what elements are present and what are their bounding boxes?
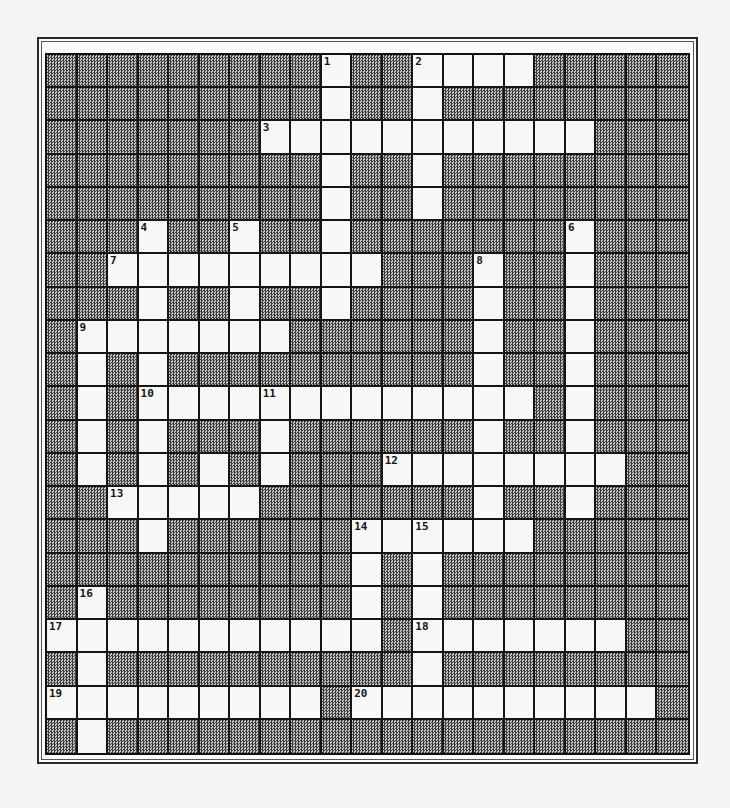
crossword-cell[interactable] [413, 88, 444, 121]
crossword-cell[interactable] [627, 687, 658, 720]
crossword-cell[interactable] [108, 687, 139, 720]
letter-input[interactable] [322, 288, 351, 319]
letter-input[interactable] [535, 687, 564, 718]
letter-input[interactable] [474, 387, 503, 418]
crossword-cell[interactable] [108, 321, 139, 354]
crossword-cell[interactable] [474, 55, 505, 88]
letter-input[interactable] [474, 55, 503, 86]
letter-input[interactable] [566, 121, 595, 152]
letter-input[interactable] [352, 620, 381, 651]
crossword-cell[interactable] [505, 520, 536, 553]
crossword-cell[interactable] [352, 587, 383, 620]
letter-input[interactable] [413, 121, 442, 152]
letter-input[interactable] [505, 454, 534, 485]
letter-input[interactable] [261, 387, 290, 418]
letter-input[interactable] [413, 653, 442, 684]
crossword-cell[interactable] [566, 354, 597, 387]
letter-input[interactable] [200, 254, 229, 285]
letter-input[interactable] [352, 587, 381, 618]
letter-input[interactable] [352, 520, 381, 551]
letter-input[interactable] [566, 421, 595, 452]
crossword-cell[interactable]: 7 [108, 254, 139, 287]
crossword-cell[interactable] [139, 487, 170, 520]
crossword-cell[interactable] [474, 520, 505, 553]
crossword-cell[interactable] [444, 454, 475, 487]
crossword-cell[interactable] [261, 321, 292, 354]
crossword-cell[interactable] [505, 687, 536, 720]
letter-input[interactable] [230, 221, 259, 252]
crossword-cell[interactable]: 4 [139, 221, 170, 254]
crossword-cell[interactable] [413, 587, 444, 620]
crossword-cell[interactable] [596, 620, 627, 653]
crossword-cell[interactable] [474, 288, 505, 321]
letter-input[interactable] [261, 421, 290, 452]
letter-input[interactable] [322, 221, 351, 252]
letter-input[interactable] [627, 687, 656, 718]
crossword-cell[interactable] [139, 454, 170, 487]
crossword-cell[interactable] [261, 454, 292, 487]
crossword-cell[interactable] [566, 387, 597, 420]
letter-input[interactable] [352, 387, 381, 418]
letter-input[interactable] [383, 121, 412, 152]
letter-input[interactable] [413, 620, 442, 651]
letter-input[interactable] [474, 321, 503, 352]
letter-input[interactable] [474, 454, 503, 485]
letter-input[interactable] [474, 354, 503, 385]
letter-input[interactable] [230, 387, 259, 418]
letter-input[interactable] [474, 687, 503, 718]
letter-input[interactable] [566, 687, 595, 718]
crossword-cell[interactable] [505, 620, 536, 653]
letter-input[interactable] [200, 487, 229, 518]
crossword-cell[interactable] [535, 121, 566, 154]
crossword-cell[interactable] [291, 687, 322, 720]
letter-input[interactable] [230, 321, 259, 352]
letter-input[interactable] [139, 288, 168, 319]
crossword-cell[interactable] [505, 387, 536, 420]
letter-input[interactable] [169, 321, 198, 352]
crossword-cell[interactable] [444, 520, 475, 553]
letter-input[interactable] [322, 254, 351, 285]
letter-input[interactable] [78, 720, 107, 753]
letter-input[interactable] [535, 121, 564, 152]
letter-input[interactable] [139, 454, 168, 485]
letter-input[interactable] [230, 620, 259, 651]
crossword-cell[interactable] [535, 620, 566, 653]
crossword-cell[interactable] [413, 121, 444, 154]
crossword-cell[interactable] [474, 421, 505, 454]
letter-input[interactable] [352, 687, 381, 718]
crossword-cell[interactable] [322, 288, 353, 321]
letter-input[interactable] [413, 587, 442, 618]
letter-input[interactable] [413, 188, 442, 219]
letter-input[interactable] [139, 620, 168, 651]
letter-input[interactable] [444, 454, 473, 485]
letter-input[interactable] [383, 454, 412, 485]
letter-input[interactable] [505, 687, 534, 718]
crossword-cell[interactable] [535, 454, 566, 487]
letter-input[interactable] [535, 454, 564, 485]
crossword-cell[interactable] [566, 254, 597, 287]
crossword-cell[interactable] [261, 421, 292, 454]
crossword-cell[interactable] [169, 321, 200, 354]
crossword-cell[interactable] [566, 454, 597, 487]
crossword-cell[interactable] [78, 421, 109, 454]
crossword-cell[interactable] [78, 354, 109, 387]
letter-input[interactable] [230, 687, 259, 718]
crossword-cell[interactable] [200, 687, 231, 720]
letter-input[interactable] [535, 620, 564, 651]
letter-input[interactable] [505, 55, 534, 86]
crossword-cell[interactable] [474, 387, 505, 420]
crossword-cell[interactable] [230, 288, 261, 321]
crossword-cell[interactable]: 16 [78, 587, 109, 620]
crossword-cell[interactable] [230, 687, 261, 720]
letter-input[interactable] [413, 155, 442, 186]
letter-input[interactable] [291, 620, 320, 651]
crossword-cell[interactable]: 14 [352, 520, 383, 553]
crossword-cell[interactable] [322, 155, 353, 188]
crossword-cell[interactable] [383, 387, 414, 420]
letter-input[interactable] [505, 387, 534, 418]
crossword-cell[interactable] [413, 155, 444, 188]
crossword-cell[interactable] [169, 254, 200, 287]
crossword-cell[interactable]: 6 [566, 221, 597, 254]
letter-input[interactable] [383, 520, 412, 551]
crossword-cell[interactable] [566, 687, 597, 720]
